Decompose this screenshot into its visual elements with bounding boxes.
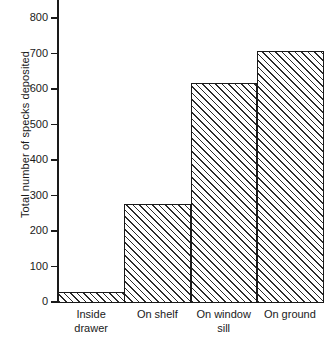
x-axis-category-label-line: drawer: [58, 322, 124, 336]
x-axis-category-label-line: Inside: [58, 308, 124, 322]
x-axis-category-label: On ground: [257, 308, 323, 322]
x-axis-category-label-line: On window: [191, 308, 257, 322]
x-axis-category-label-line: sill: [191, 322, 257, 336]
bar: [191, 83, 258, 303]
x-axis-category-label: Insidedrawer: [58, 308, 124, 335]
x-axis-category-label: On shelf: [124, 308, 190, 322]
bar-chart: Total number of specks deposited 0100200…: [0, 0, 336, 343]
bar: [58, 292, 125, 303]
x-axis-category-label-line: On shelf: [124, 308, 190, 322]
bars-layer: [0, 0, 336, 343]
x-axis-category-label-line: On ground: [257, 308, 323, 322]
bar: [124, 204, 191, 303]
x-axis-category-label: On windowsill: [191, 308, 257, 335]
bar: [257, 51, 324, 303]
